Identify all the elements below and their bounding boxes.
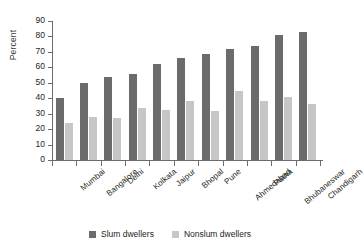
x-tick-label: Pune bbox=[223, 167, 243, 186]
bar-group bbox=[223, 21, 247, 160]
bar-group bbox=[125, 21, 149, 160]
y-tick-label: 90 bbox=[36, 15, 45, 25]
bar-nonslum bbox=[89, 117, 97, 160]
bar-slum bbox=[275, 35, 283, 160]
bar-slum bbox=[153, 64, 161, 160]
legend-item[interactable]: Nonslum dwellers bbox=[172, 229, 251, 239]
bar-group bbox=[271, 21, 295, 160]
bar-nonslum bbox=[211, 111, 219, 160]
y-tick-label: 70 bbox=[36, 46, 45, 56]
y-tick-label: 30 bbox=[36, 108, 45, 118]
bar-slum bbox=[202, 54, 210, 160]
x-tick-label: Patna bbox=[272, 167, 294, 188]
y-tick-label: 10 bbox=[36, 139, 45, 149]
x-tick-mark bbox=[320, 161, 321, 166]
bar-group bbox=[247, 21, 271, 160]
bar-slum bbox=[56, 98, 64, 160]
x-tick-label: Mumbai bbox=[79, 167, 107, 193]
legend-swatch-icon bbox=[172, 231, 179, 238]
bar-slum bbox=[251, 46, 259, 160]
chart-legend: Slum dwellersNonslum dwellers bbox=[0, 229, 340, 239]
bar-group bbox=[296, 21, 320, 160]
bar-group bbox=[174, 21, 198, 160]
x-tick-label: Jaipur bbox=[175, 167, 198, 188]
bar-slum bbox=[104, 77, 112, 160]
y-tick-label: 0 bbox=[40, 154, 45, 164]
bar-nonslum bbox=[162, 110, 170, 160]
bar-nonslum bbox=[284, 97, 292, 160]
legend-label: Nonslum dwellers bbox=[184, 229, 251, 239]
y-tick-label: 20 bbox=[36, 123, 45, 133]
bar-slum bbox=[177, 58, 185, 160]
bar-slum bbox=[226, 49, 234, 160]
bar-nonslum bbox=[260, 101, 268, 160]
y-axis-title: Percent bbox=[8, 10, 18, 80]
bar-nonslum bbox=[235, 91, 243, 160]
bar-group bbox=[76, 21, 100, 160]
bar-group bbox=[198, 21, 222, 160]
bar-group bbox=[52, 21, 76, 160]
bar-group bbox=[101, 21, 125, 160]
bar-slum bbox=[299, 32, 307, 160]
bar-nonslum bbox=[186, 101, 194, 160]
bar-nonslum bbox=[308, 104, 316, 160]
bar-nonslum bbox=[138, 108, 146, 160]
bar-group bbox=[149, 21, 173, 160]
legend-item[interactable]: Slum dwellers bbox=[89, 229, 154, 239]
legend-label: Slum dwellers bbox=[101, 229, 154, 239]
y-tick-label: 50 bbox=[36, 77, 45, 87]
bar-nonslum bbox=[65, 123, 73, 160]
bar-slum bbox=[129, 74, 137, 160]
bar-nonslum bbox=[113, 118, 121, 160]
bar-slum bbox=[80, 83, 88, 160]
x-tick-label: Kolkata bbox=[151, 167, 178, 192]
x-axis-labels: MumbaiBangaloreDelhiKolkataJaipurBhopalP… bbox=[52, 161, 320, 221]
y-tick-label: 40 bbox=[36, 92, 45, 102]
y-tick-label: 60 bbox=[36, 61, 45, 71]
bar-groups bbox=[52, 21, 320, 160]
legend-swatch-icon bbox=[89, 231, 96, 238]
y-tick-label: 80 bbox=[36, 30, 45, 40]
